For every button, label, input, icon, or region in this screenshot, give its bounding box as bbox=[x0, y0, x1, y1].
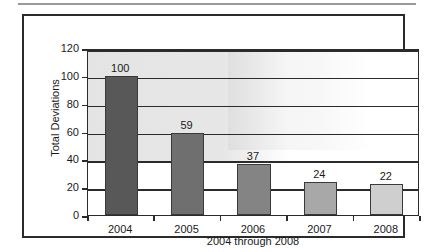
y-axis-tick bbox=[82, 133, 87, 135]
x-axis-label-2007: 2007 bbox=[286, 223, 352, 235]
bar-2004 bbox=[105, 76, 138, 215]
y-axis-tick bbox=[82, 160, 87, 162]
bar-value-2005: 59 bbox=[153, 119, 219, 131]
bar-value-2007: 24 bbox=[286, 168, 352, 180]
x-axis-tick bbox=[419, 216, 421, 221]
y-axis-tick bbox=[82, 105, 87, 107]
x-axis-label-2008: 2008 bbox=[353, 223, 419, 235]
y-axis-label: 20 bbox=[43, 181, 79, 193]
bar-2006 bbox=[237, 164, 270, 215]
y-axis-label: 100 bbox=[43, 70, 79, 82]
x-axis-tick bbox=[87, 216, 89, 221]
y-axis-label: 120 bbox=[43, 42, 79, 54]
x-axis-title: 2004 through 2008 bbox=[87, 235, 419, 247]
chart-figure-frame: Total Deviations 020406080100120 2004200… bbox=[22, 14, 405, 238]
scan-shading-mid bbox=[228, 50, 373, 150]
y-axis-label: 80 bbox=[43, 98, 79, 110]
bar-value-2006: 37 bbox=[220, 150, 286, 162]
x-axis-tick bbox=[286, 216, 288, 221]
x-axis-label-2006: 2006 bbox=[220, 223, 286, 235]
x-axis-label-2004: 2004 bbox=[87, 223, 153, 235]
gridline bbox=[88, 50, 418, 52]
y-axis-tick bbox=[82, 49, 87, 51]
bar-2007 bbox=[304, 182, 337, 215]
y-axis-tick bbox=[82, 77, 87, 79]
y-axis-tick bbox=[82, 188, 87, 190]
x-axis-tick bbox=[353, 216, 355, 221]
gridline bbox=[88, 216, 418, 217]
x-axis-tick bbox=[220, 216, 222, 221]
x-axis-label-2005: 2005 bbox=[153, 223, 219, 235]
bar-value-2008: 22 bbox=[353, 170, 419, 182]
bar-2008 bbox=[370, 184, 403, 215]
x-axis-tick bbox=[153, 216, 155, 221]
y-axis-label: 60 bbox=[43, 126, 79, 138]
plot-area bbox=[87, 49, 419, 216]
page-top-rule bbox=[18, 3, 416, 5]
y-axis-label: 40 bbox=[43, 153, 79, 165]
bar-value-2004: 100 bbox=[87, 62, 153, 74]
bar-2005 bbox=[171, 133, 204, 215]
y-axis-label: 0 bbox=[43, 209, 79, 221]
